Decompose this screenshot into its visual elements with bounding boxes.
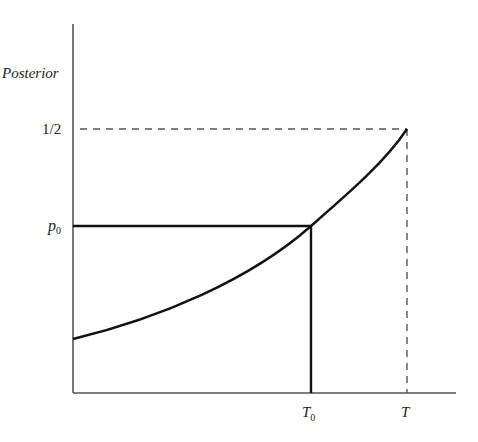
p0-tick-label: p0 [47, 217, 61, 236]
T0-tick-label: T0 [302, 404, 315, 423]
posterior-curve [73, 129, 407, 339]
half-tick-label: 1/2 [42, 121, 61, 137]
y-axis-label: Posterior [1, 65, 59, 81]
T-tick-label: T [401, 404, 411, 420]
posterior-diagram: Posterior 1/2 p0 T0 T [0, 0, 478, 442]
